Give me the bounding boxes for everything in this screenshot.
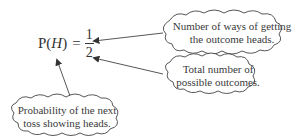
callout-line: Total number of: [170, 63, 266, 76]
callout-probability-text: Probability of the next toss showing hea…: [14, 104, 120, 130]
callout-line: Probability of the next: [14, 104, 120, 117]
arrow-to-probability: [57, 60, 70, 96]
formula-variable: H: [51, 35, 62, 52]
callout-line: toss showing heads.: [14, 117, 120, 130]
formula-denominator: 2: [86, 45, 93, 60]
fraction-bar: [85, 43, 94, 44]
formula-lhs-prefix: P(: [38, 35, 51, 52]
formula-fraction: 1 2: [85, 27, 94, 60]
callout-line: possible outcomes.: [170, 76, 266, 89]
callout-denominator-text: Total number of possible outcomes.: [170, 63, 266, 89]
callout-numerator-text: Number of ways of getting the outcome he…: [172, 20, 292, 46]
formula-numerator: 1: [86, 27, 93, 42]
probability-formula: P(H) = 1 2: [38, 27, 94, 60]
formula-equals: =: [72, 35, 80, 52]
arrow-to-numerator: [94, 33, 163, 41]
arrow-to-denominator: [94, 58, 163, 74]
formula-lhs-suffix: ): [62, 35, 67, 52]
callout-line: the outcome heads.: [172, 33, 292, 46]
callout-line: Number of ways of getting: [172, 20, 292, 33]
